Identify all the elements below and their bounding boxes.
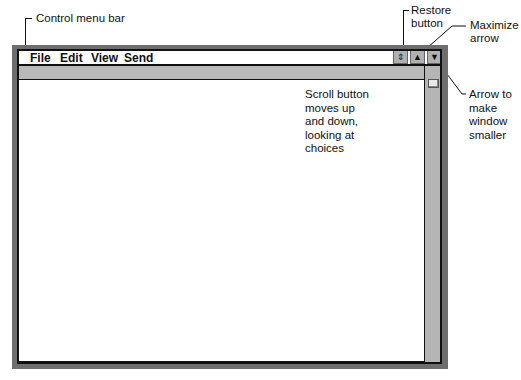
annotation-line: window xyxy=(469,115,512,129)
annotation-scroll-button: Scroll button moves up and down, looking… xyxy=(305,88,369,156)
annotation-line: smaller xyxy=(469,129,512,143)
menu-file[interactable]: File xyxy=(30,51,51,65)
toolbar-strip xyxy=(18,66,441,80)
annotation-arrow-smaller: Arrow to make window smaller xyxy=(469,88,512,142)
annotation-line: make xyxy=(469,102,512,116)
annotation-line: moves up xyxy=(305,102,369,116)
control-menu-bar: File Edit View Send ⇕ ▲ ▼ xyxy=(18,50,441,66)
window: File Edit View Send ⇕ ▲ ▼ xyxy=(17,49,442,364)
annotation-line: Scroll button xyxy=(305,88,369,102)
menu-send[interactable]: Send xyxy=(124,51,153,65)
annotation-line: looking at xyxy=(305,129,369,143)
annotation-line: choices xyxy=(305,142,369,156)
scrollbar-track[interactable] xyxy=(424,66,441,363)
annotation-line: Arrow to xyxy=(469,88,512,102)
restore-button[interactable]: ⇕ xyxy=(393,50,408,64)
menu-view[interactable]: View xyxy=(91,51,118,65)
scroll-button[interactable] xyxy=(428,79,439,88)
maximize-arrow-button[interactable]: ▲ xyxy=(410,50,425,64)
menu-edit[interactable]: Edit xyxy=(60,51,83,65)
annotation-line: and down, xyxy=(305,115,369,129)
minimize-arrow-button[interactable]: ▼ xyxy=(427,50,442,64)
